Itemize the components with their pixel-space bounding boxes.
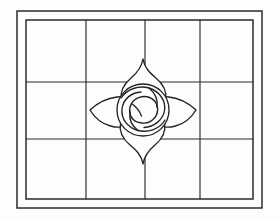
panel-drawing [0, 0, 280, 219]
knot-outer-ring [117, 84, 169, 136]
rose-knot-group [117, 84, 169, 136]
stained-glass-panel-figure: Stained glass panel pattern Line drawing… [0, 0, 280, 219]
